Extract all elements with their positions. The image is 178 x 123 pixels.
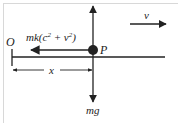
resistance-close: ) (71, 31, 76, 44)
velocity-label: v (144, 9, 149, 21)
resistance-force-text: mk(c (26, 31, 47, 44)
free-body-diagram: O P mk(c2 + v2) x v mg (0, 0, 178, 123)
resistance-force-label: mk(c2 + v2) (26, 31, 76, 44)
weight-label: mg (86, 104, 100, 116)
resistance-mid: + v (51, 31, 69, 43)
origin-label: O (6, 35, 15, 49)
particle-label: P (99, 43, 108, 57)
displacement-label: x (48, 64, 54, 76)
particle-dot (88, 45, 98, 55)
